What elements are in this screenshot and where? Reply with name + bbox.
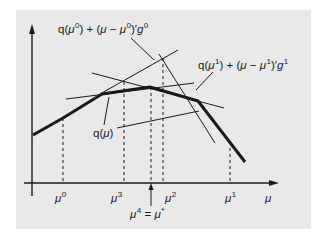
optimum-arrow — [149, 183, 154, 206]
tick-sup: 1 — [232, 190, 236, 199]
tangent-0-label: q(μ0) + (μ − μ0)′g0 — [58, 22, 148, 36]
optimum-label: μ4 = μ* — [130, 207, 164, 221]
label-part: q( — [198, 59, 208, 71]
curve-label: q(μ) — [93, 128, 113, 140]
label-part: μ — [120, 23, 126, 35]
label-sup: 1 — [284, 57, 288, 66]
tick-mu3: μ3 — [111, 191, 122, 205]
label-part: μ — [68, 23, 74, 35]
label-part: − — [107, 23, 120, 35]
axes — [24, 24, 279, 196]
label-sup: 0 — [144, 21, 148, 30]
tick-base: μ — [165, 192, 171, 204]
label-part: g — [137, 23, 143, 35]
label-part: μ — [260, 59, 266, 71]
label-part: μ — [154, 208, 160, 220]
tick-base: μ — [55, 192, 61, 204]
label-part: q( — [93, 127, 103, 139]
label-part: ) + ( — [80, 23, 101, 35]
tangent-lines — [66, 38, 224, 143]
tick-mu1: μ1 — [225, 191, 236, 205]
dual-function-curve — [33, 87, 245, 162]
label-part: ) — [110, 127, 114, 139]
tick-base: μ — [225, 192, 231, 204]
label-part: q( — [58, 23, 68, 35]
label-part: = — [141, 208, 154, 220]
axis-label: μ — [265, 192, 271, 204]
tick-sup: 0 — [62, 190, 66, 199]
label-part: μ — [208, 59, 214, 71]
dual-function-diagram — [0, 0, 326, 238]
tick-mu2: μ2 — [165, 191, 176, 205]
tangent-1-label: q(μ1) + (μ − μ1)′g1 — [198, 58, 288, 72]
x-axis-label: μ — [265, 193, 271, 205]
tick-mu0: μ0 — [55, 191, 66, 205]
tick-sup: 3 — [118, 190, 122, 199]
label-part: g — [277, 59, 283, 71]
label-part: μ — [130, 208, 136, 220]
label-part: − — [247, 59, 260, 71]
label-part: ) + ( — [220, 59, 241, 71]
tick-sup: 2 — [172, 190, 176, 199]
tick-base: μ — [111, 192, 117, 204]
label-sup: * — [161, 206, 164, 215]
dashed-guides — [63, 58, 230, 183]
